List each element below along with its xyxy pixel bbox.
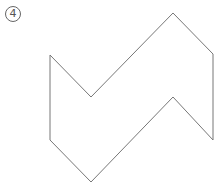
zigzag-polygon [50, 13, 213, 182]
zigzag-polygon-figure [0, 0, 218, 185]
